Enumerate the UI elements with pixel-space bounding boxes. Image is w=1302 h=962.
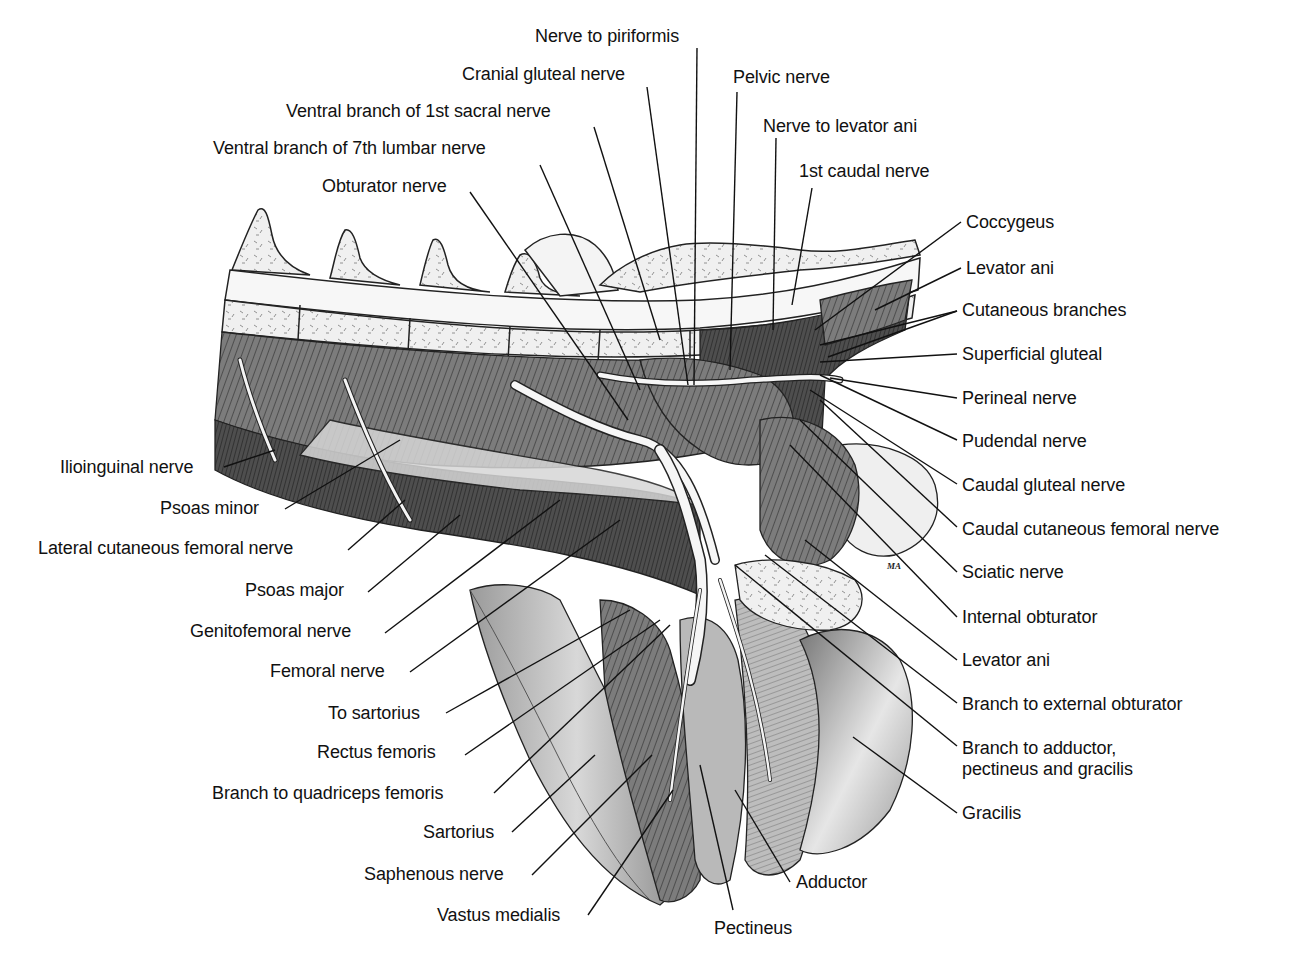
label-gracilis: Gracilis [962,803,1021,824]
label-lateral-cutaneous-femoral-nerve: Lateral cutaneous femoral nerve [38,538,293,559]
label-caudal-gluteal-nerve: Caudal gluteal nerve [962,475,1125,496]
label-saphenous-nerve: Saphenous nerve [364,864,504,885]
label-branch-to-adductor: Branch to adductor,pectineus and gracili… [962,738,1133,780]
label-text: Vastus medialis [437,905,560,925]
label-perineal-nerve: Perineal nerve [962,388,1077,409]
label-text: Branch to adductor, [962,738,1116,758]
label-text: Pelvic nerve [733,67,830,87]
label-text: Gracilis [962,803,1021,823]
label-text: Levator ani [966,258,1054,278]
label-text: Psoas major [245,580,344,600]
label-text: Obturator nerve [322,176,447,196]
label-ilioinguinal-nerve: Ilioinguinal nerve [60,457,193,478]
anatomical-diagram: Nerve to piriformisCranial gluteal nerve… [0,0,1302,962]
label-1st-caudal-nerve: 1st caudal nerve [799,161,929,182]
label-branch-to-quadriceps-femoris: Branch to quadriceps femoris [212,783,443,804]
label-psoas-major: Psoas major [245,580,344,601]
label-pudendal-nerve: Pudendal nerve [962,431,1087,452]
label-ventral-branch-1st-sacral: Ventral branch of 1st sacral nerve [286,101,551,122]
label-caudal-cutaneous-femoral-nerve: Caudal cutaneous femoral nerve [962,519,1219,540]
label-text: Psoas minor [160,498,259,518]
label-levator-ani-bottom: Levator ani [962,650,1050,671]
label-superficial-gluteal: Superficial gluteal [962,344,1102,365]
label-text: Sartorius [423,822,494,842]
label-text-line2: pectineus and gracilis [962,759,1133,780]
label-ventral-branch-7th-lumbar: Ventral branch of 7th lumbar nerve [213,138,486,159]
label-psoas-minor: Psoas minor [160,498,259,519]
label-text: Levator ani [962,650,1050,670]
label-text: 1st caudal nerve [799,161,929,181]
label-adductor: Adductor [796,872,867,893]
label-pectineus: Pectineus [714,918,792,939]
label-femoral-nerve: Femoral nerve [270,661,385,682]
label-obturator-nerve: Obturator nerve [322,176,447,197]
label-nerve-to-piriformis: Nerve to piriformis [535,26,679,47]
label-text: Coccygeus [966,212,1054,232]
label-pelvic-nerve: Pelvic nerve [733,67,830,88]
label-text: Rectus femoris [317,742,436,762]
label-text: Femoral nerve [270,661,385,681]
thigh-muscles [470,560,912,905]
label-text: Adductor [796,872,867,892]
label-text: Ventral branch of 1st sacral nerve [286,101,551,121]
artist-signature: MA [887,561,901,571]
label-text: Ventral branch of 7th lumbar nerve [213,138,486,158]
label-text: Branch to quadriceps femoris [212,783,443,803]
label-text: Perineal nerve [962,388,1077,408]
label-cutaneous-branches: Cutaneous branches [962,300,1126,321]
label-text: Caudal cutaneous femoral nerve [962,519,1219,539]
label-vastus-medialis: Vastus medialis [437,905,560,926]
ischial-region [760,417,938,565]
label-text: Sciatic nerve [962,562,1064,582]
label-text: Branch to external obturator [962,694,1182,714]
label-coccygeus: Coccygeus [966,212,1054,233]
label-sciatic-nerve: Sciatic nerve [962,562,1064,583]
label-text: Caudal gluteal nerve [962,475,1125,495]
label-text: Pectineus [714,918,792,938]
label-text: Nerve to piriformis [535,26,679,46]
label-text: Nerve to levator ani [763,116,917,136]
label-rectus-femoris: Rectus femoris [317,742,436,763]
label-text: Cutaneous branches [962,300,1126,320]
label-genitofemoral-nerve: Genitofemoral nerve [190,621,351,642]
label-internal-obturator: Internal obturator [962,607,1097,628]
label-text: Internal obturator [962,607,1097,627]
label-text: Genitofemoral nerve [190,621,351,641]
label-text: Lateral cutaneous femoral nerve [38,538,293,558]
label-text: To sartorius [328,703,420,723]
label-text: Cranial gluteal nerve [462,64,625,84]
label-branch-to-external-obturator: Branch to external obturator [962,694,1182,715]
label-sartorius: Sartorius [423,822,494,843]
label-levator-ani-top: Levator ani [966,258,1054,279]
label-text: Saphenous nerve [364,864,504,884]
label-cranial-gluteal-nerve: Cranial gluteal nerve [462,64,625,85]
label-text: Pudendal nerve [962,431,1087,451]
label-text: Superficial gluteal [962,344,1102,364]
label-nerve-to-levator-ani: Nerve to levator ani [763,116,917,137]
label-to-sartorius: To sartorius [328,703,420,724]
label-text: Ilioinguinal nerve [60,457,193,477]
